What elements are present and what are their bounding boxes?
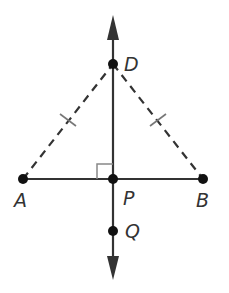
congruence-tick-DB [150, 114, 166, 126]
point-Q [108, 226, 118, 236]
point-B [198, 174, 208, 184]
label-D: D [124, 53, 139, 75]
segment-AD-dashed [23, 64, 113, 179]
point-D [108, 59, 118, 69]
point-A [18, 174, 28, 184]
geometry-diagram: D A P B Q [0, 0, 229, 293]
arrowhead-down-icon [107, 256, 119, 280]
congruence-tick-AD [60, 114, 76, 126]
label-Q: Q [125, 220, 140, 242]
diagram-canvas: D A P B Q [0, 0, 229, 293]
label-B: B [196, 189, 209, 211]
arrowhead-up-icon [107, 15, 119, 40]
label-P: P [123, 187, 135, 209]
segment-DB-dashed [113, 64, 203, 179]
point-P [108, 174, 118, 184]
label-A: A [12, 189, 27, 211]
